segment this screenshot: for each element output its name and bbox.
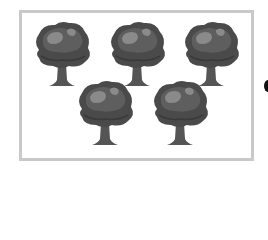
tree-icon: [149, 79, 211, 149]
tree-icon: [74, 79, 136, 149]
partial-glyph: [264, 80, 268, 92]
